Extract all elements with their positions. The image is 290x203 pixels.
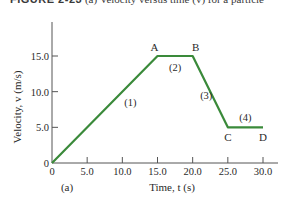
y-axis-label: Velocity, v (m/s) (11, 70, 24, 143)
x-tick-label: 20.0 (183, 166, 201, 177)
panel-label: (a) (61, 181, 74, 194)
data-series (52, 56, 263, 163)
axes (52, 22, 278, 163)
velocity-line (52, 56, 263, 163)
x-tick-label: 5.0 (81, 166, 94, 177)
segment-label: (3) (200, 90, 213, 102)
x-tick-label: 0 (49, 166, 54, 177)
point-label-c: C (224, 131, 231, 143)
x-tick-label: 30.0 (254, 166, 272, 177)
x-tick-label: 10.0 (113, 166, 131, 177)
segment-label: (4) (239, 112, 252, 124)
point-label-d: D (259, 131, 267, 143)
tick-marks: 05.010.015.020.025.030.005.010.015.0 (31, 51, 273, 177)
x-axis-label: Time, t (s) (149, 181, 195, 194)
velocity-time-chart: 05.010.015.020.025.030.005.010.015.0 ABC… (0, 0, 290, 203)
x-tick-label: 25.0 (219, 166, 237, 177)
y-tick-label: 10.0 (31, 87, 49, 98)
point-label-a: A (151, 41, 159, 53)
y-tick-label: 15.0 (31, 51, 49, 62)
x-tick-label: 15.0 (148, 166, 166, 177)
y-tick-label: 0 (44, 158, 49, 169)
segment-label: (1) (124, 97, 137, 109)
point-label-b: B (192, 41, 199, 53)
segment-label: (2) (169, 62, 182, 74)
y-tick-label: 5.0 (36, 122, 49, 133)
